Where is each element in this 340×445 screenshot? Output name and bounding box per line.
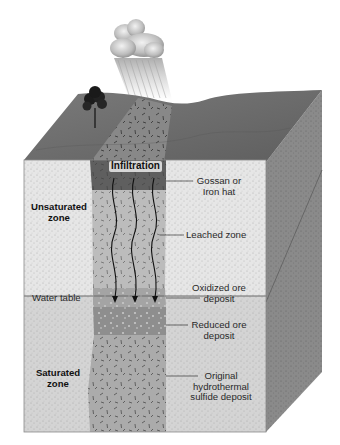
original-sulfide-label: Original hydrothermal sulfide deposit	[183, 371, 259, 403]
saturated-zone-label: Saturated zone	[30, 368, 86, 389]
unsaturated-zone-label-line2: zone	[28, 213, 90, 224]
reduced-ore-label-line1: Reduced ore	[185, 320, 253, 331]
oxidized-ore-label-line1: Oxidized ore	[185, 283, 253, 294]
saturated-zone-label-line2: zone	[30, 379, 86, 390]
leached-zone-label: Leached zone	[186, 230, 246, 241]
water-table-label: Water table	[32, 293, 81, 304]
original-sulfide-label-line1: Original	[183, 371, 259, 382]
unsaturated-zone-label: Unsaturated zone	[28, 202, 90, 223]
ore-deposit-block-diagram: Infiltration Unsaturated zone Water tabl…	[0, 0, 340, 445]
original-sulfide-label-line3: sulfide deposit	[183, 392, 259, 403]
rain-icon	[114, 58, 172, 100]
cloud-icon	[110, 19, 164, 58]
gossan-label: Gossan or Iron hat	[193, 176, 245, 197]
gossan-label-line1: Gossan or	[193, 176, 245, 187]
infiltration-label: Infiltration	[109, 161, 162, 172]
oxidized-ore-label-line2: deposit	[185, 294, 253, 305]
gossan-label-line2: Iron hat	[193, 187, 245, 198]
reduced-ore-label: Reduced ore deposit	[185, 320, 253, 341]
reduced-ore-label-line2: deposit	[185, 331, 253, 342]
saturated-zone-label-line1: Saturated	[30, 368, 86, 379]
oxidized-ore-label: Oxidized ore deposit	[185, 283, 253, 304]
unsaturated-zone-label-line1: Unsaturated	[28, 202, 90, 213]
